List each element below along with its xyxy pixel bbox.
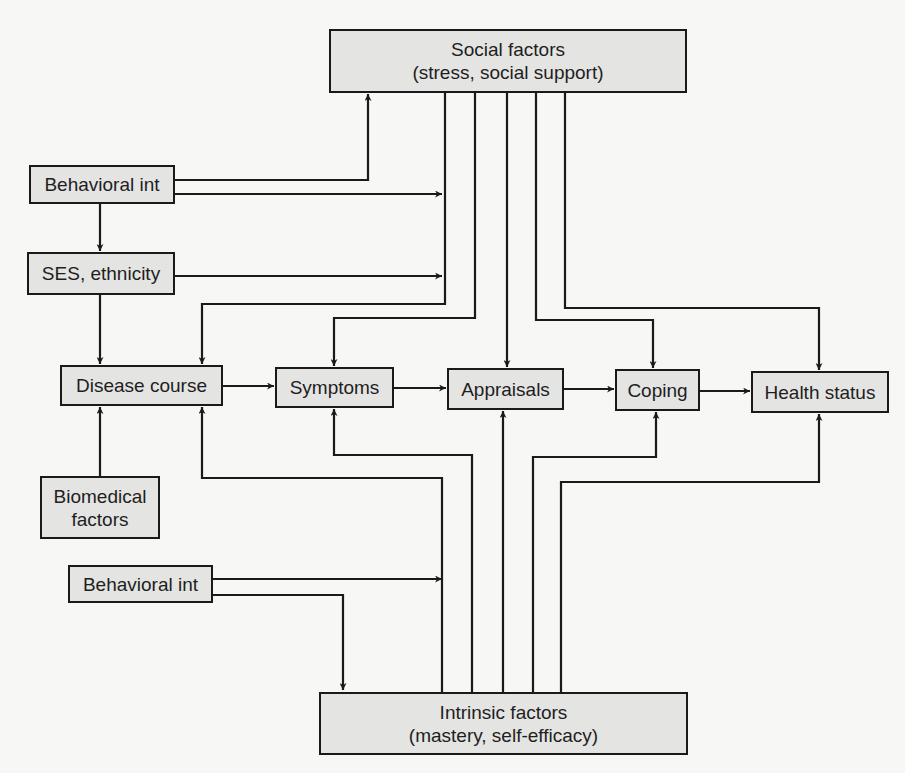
social-factors-title: Social factors (451, 38, 565, 61)
node-behavioral-int-top: Behavioral int (29, 165, 175, 204)
biomedical-factors-line2: factors (71, 508, 128, 531)
intrinsic-factors-title: Intrinsic factors (440, 701, 568, 724)
disease-course-label: Disease course (76, 374, 207, 397)
edge-intrinsic-to-coping (533, 412, 656, 692)
symptoms-label: Symptoms (290, 376, 380, 399)
node-social-factors: Social factors (stress, social support) (329, 29, 687, 93)
edge-social-to-coping (536, 92, 653, 368)
coping-label: Coping (627, 379, 687, 402)
biomedical-factors-line1: Biomedical (54, 485, 147, 508)
edge-social-to-health (565, 92, 819, 370)
edge-social-to-disease (202, 92, 445, 364)
node-disease-course: Disease course (60, 365, 223, 406)
node-intrinsic-factors: Intrinsic factors (mastery, self-efficac… (319, 692, 688, 755)
node-appraisals: Appraisals (447, 368, 564, 410)
appraisals-label: Appraisals (461, 378, 550, 401)
node-behavioral-int-bottom: Behavioral int (68, 565, 213, 603)
edge-intrinsic-to-symptoms (334, 409, 472, 692)
edge-social-to-symptoms (334, 92, 475, 366)
edge-intrinsic-to-health (561, 414, 819, 692)
node-coping: Coping (615, 369, 700, 411)
node-ses-ethnicity: SES, ethnicity (27, 252, 175, 295)
edge-behavioral-to-social (174, 94, 368, 180)
edge-intrinsic-to-disease (202, 407, 442, 692)
social-factors-subtitle: (stress, social support) (412, 61, 603, 84)
behavioral-int-bottom-label: Behavioral int (83, 573, 198, 596)
ses-ethnicity-label: SES, ethnicity (42, 262, 160, 285)
node-health-status: Health status (751, 371, 889, 413)
intrinsic-factors-subtitle: (mastery, self-efficacy) (409, 724, 598, 747)
node-symptoms: Symptoms (275, 367, 394, 408)
health-status-label: Health status (765, 381, 876, 404)
behavioral-int-top-label: Behavioral int (44, 173, 159, 196)
node-biomedical-factors: Biomedical factors (40, 476, 160, 539)
edge-behavioral-bottom-to-intrinsic (212, 595, 343, 690)
